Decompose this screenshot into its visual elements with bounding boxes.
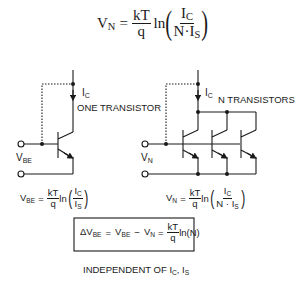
left-ic-label: IC: [82, 87, 90, 99]
one-transistor-title: ONE TRANSISTOR: [77, 102, 161, 113]
vn-input-label: VN: [141, 152, 153, 164]
independence-note: INDEPENDENT OF IC, IS: [83, 264, 189, 276]
vn-equation: VN = kTq ln ( ICN · IS ): [166, 186, 246, 210]
delta-vbe-equation: ΔVBE = VBE − VN = kTq ln(N): [80, 222, 200, 242]
n-transistors-circuit: [142, 70, 256, 177]
vbe-input-label: VBE: [16, 152, 32, 164]
right-ic-label: IC: [205, 87, 213, 99]
n-transistors-title: N TRANSISTORS: [218, 94, 295, 105]
vbe-equation: VBE = kTq ln ( ICIS ): [20, 186, 90, 210]
